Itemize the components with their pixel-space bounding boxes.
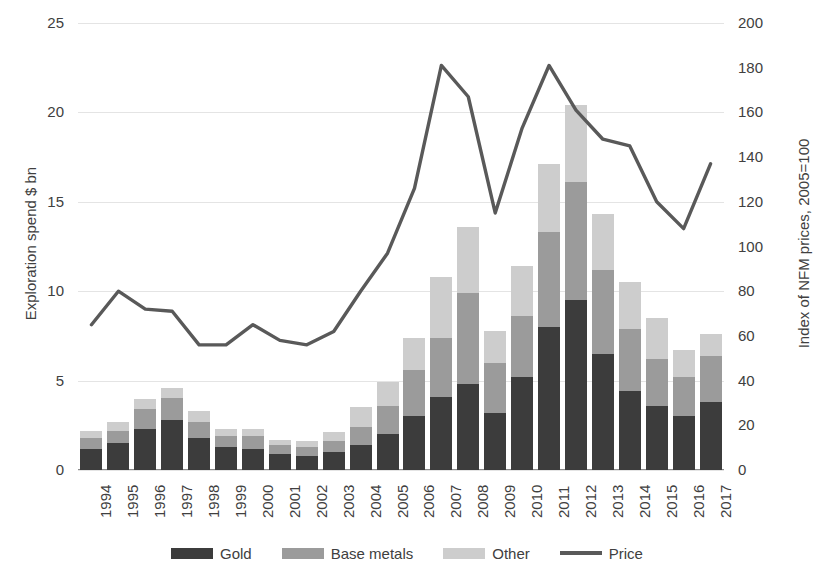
y-tick-left-5: 5 xyxy=(24,373,64,388)
legend-item-other[interactable]: Other xyxy=(443,545,530,562)
y-tick-left-10: 10 xyxy=(24,283,64,298)
price-polyline xyxy=(91,65,710,344)
x-tick-2011: 2011 xyxy=(555,486,572,518)
chart-legend: GoldBase metalsOtherPrice xyxy=(0,540,814,566)
y-tick-right-200: 200 xyxy=(738,15,778,30)
x-tick-2017: 2017 xyxy=(717,485,734,518)
legend-label: Other xyxy=(492,545,530,562)
x-tick-1995: 1995 xyxy=(124,485,141,518)
x-tick-2015: 2015 xyxy=(663,485,680,518)
x-axis-labels: 1994199519961997199819992000200120022003… xyxy=(78,472,724,530)
x-tick-2007: 2007 xyxy=(447,485,464,518)
x-tick-2016: 2016 xyxy=(690,485,707,518)
x-tick-2000: 2000 xyxy=(259,485,276,518)
y-tick-right-160: 160 xyxy=(738,104,778,119)
legend-swatch-icon xyxy=(171,548,213,559)
legend-item-base-metals[interactable]: Base metals xyxy=(282,545,414,562)
y-tick-left-25: 25 xyxy=(24,15,64,30)
x-tick-2014: 2014 xyxy=(636,485,653,518)
x-tick-2002: 2002 xyxy=(313,485,330,518)
y-axis-right-ticks: 200180160140120100806040200 xyxy=(738,0,784,575)
x-tick-1996: 1996 xyxy=(151,485,168,518)
x-tick-2013: 2013 xyxy=(609,485,626,518)
legend-swatch-icon xyxy=(560,551,602,555)
y-tick-left-0: 0 xyxy=(24,462,64,477)
x-tick-2005: 2005 xyxy=(394,485,411,518)
y-tick-right-20: 20 xyxy=(738,417,778,432)
legend-label: Gold xyxy=(220,545,252,562)
x-tick-2009: 2009 xyxy=(501,485,518,518)
y-tick-right-60: 60 xyxy=(738,328,778,343)
x-tick-1999: 1999 xyxy=(232,485,249,518)
x-tick-2008: 2008 xyxy=(474,485,491,518)
y-tick-left-20: 20 xyxy=(24,104,64,119)
legend-swatch-icon xyxy=(282,548,324,559)
y-tick-right-80: 80 xyxy=(738,283,778,298)
y-tick-right-0: 0 xyxy=(738,462,778,477)
y-tick-right-100: 100 xyxy=(738,239,778,254)
legend-label: Price xyxy=(609,545,643,562)
x-tick-2006: 2006 xyxy=(420,485,437,518)
plot-area xyxy=(78,23,724,470)
x-tick-1997: 1997 xyxy=(178,485,195,518)
x-tick-1998: 1998 xyxy=(205,485,222,518)
price-line-series xyxy=(78,23,724,470)
y-axis-left-ticks: 2520151050 xyxy=(18,0,64,575)
y-tick-right-140: 140 xyxy=(738,149,778,164)
y-tick-left-15: 15 xyxy=(24,194,64,209)
legend-item-price[interactable]: Price xyxy=(560,545,643,562)
y-tick-right-180: 180 xyxy=(738,60,778,75)
y-axis-right-title: Index of NFM prices, 2005=100 xyxy=(795,124,812,364)
x-tick-2003: 2003 xyxy=(340,485,357,518)
y-tick-right-120: 120 xyxy=(738,194,778,209)
legend-item-gold[interactable]: Gold xyxy=(171,545,252,562)
y-tick-right-40: 40 xyxy=(738,373,778,388)
x-tick-2010: 2010 xyxy=(528,485,545,518)
stacked-bar-line-chart: Exploration spend $ bn Index of NFM pric… xyxy=(0,0,814,575)
legend-swatch-icon xyxy=(443,548,485,559)
x-tick-2012: 2012 xyxy=(582,485,599,518)
legend-label: Base metals xyxy=(331,545,414,562)
x-tick-2001: 2001 xyxy=(286,485,303,518)
x-tick-1994: 1994 xyxy=(97,485,114,518)
gridline xyxy=(78,470,724,471)
x-tick-2004: 2004 xyxy=(367,485,384,518)
